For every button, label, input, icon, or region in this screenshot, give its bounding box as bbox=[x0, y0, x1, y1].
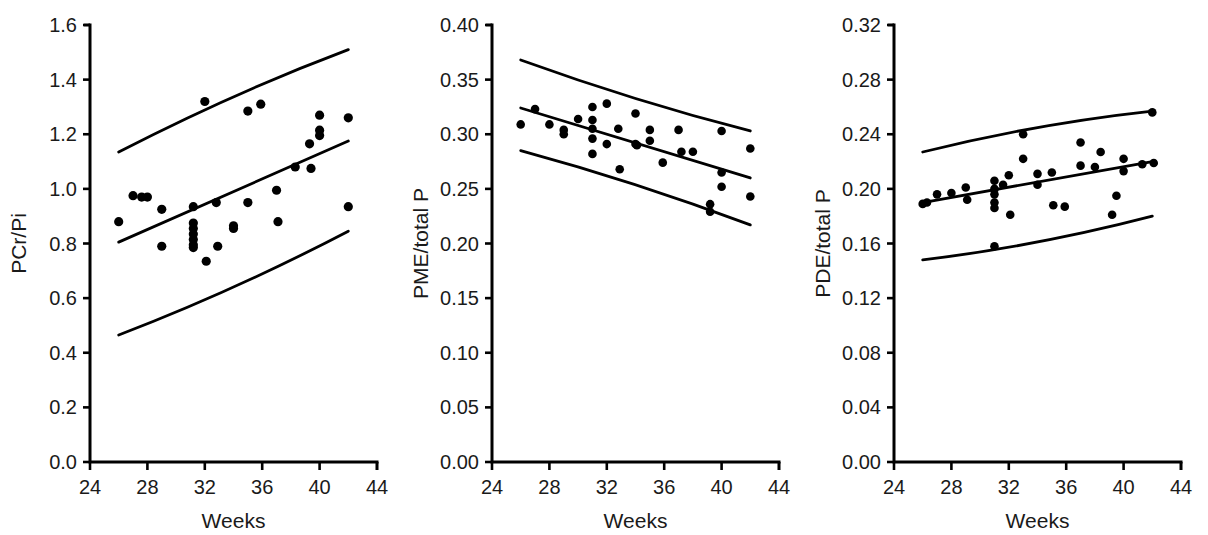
data-point bbox=[646, 137, 655, 146]
data-point bbox=[157, 205, 166, 214]
x-tick-label: 32 bbox=[596, 476, 618, 498]
data-point bbox=[157, 242, 166, 251]
data-point bbox=[306, 164, 315, 173]
data-point bbox=[588, 150, 597, 159]
data-point bbox=[1108, 211, 1117, 220]
y-tick-label: 0.28 bbox=[842, 69, 881, 91]
data-point bbox=[658, 158, 667, 167]
lower-confidence-band bbox=[119, 231, 349, 335]
x-tick-label: 32 bbox=[194, 476, 216, 498]
data-point bbox=[717, 168, 726, 177]
upper-confidence-band bbox=[119, 50, 349, 152]
data-point bbox=[746, 192, 755, 201]
data-point bbox=[1148, 108, 1157, 117]
data-point bbox=[243, 106, 252, 115]
data-point bbox=[990, 176, 999, 185]
data-point bbox=[963, 196, 972, 205]
upper-confidence-band bbox=[923, 111, 1153, 152]
data-point bbox=[143, 192, 152, 201]
data-point bbox=[990, 190, 999, 199]
data-point bbox=[1076, 138, 1085, 147]
x-axis-title: Weeks bbox=[1006, 509, 1070, 532]
data-point bbox=[615, 165, 624, 174]
y-tick-label: 0.20 bbox=[440, 233, 479, 255]
x-axis-title: Weeks bbox=[202, 509, 266, 532]
data-point bbox=[213, 242, 222, 251]
data-point bbox=[1019, 130, 1028, 139]
y-tick-label: 0.6 bbox=[49, 287, 77, 309]
y-tick-label: 0.12 bbox=[842, 287, 881, 309]
axis-spine bbox=[90, 25, 377, 462]
axis-spine bbox=[894, 25, 1181, 462]
data-point bbox=[1091, 163, 1100, 172]
data-point bbox=[1096, 148, 1105, 157]
upper-confidence-band bbox=[521, 60, 751, 131]
data-point bbox=[315, 111, 324, 120]
panel-pcr-pi: 0.00.20.40.60.81.01.21.41.6242832364044W… bbox=[0, 0, 402, 535]
x-tick-label: 28 bbox=[538, 476, 560, 498]
y-tick-label: 1.0 bbox=[49, 178, 77, 200]
y-tick-label: 0.35 bbox=[440, 69, 479, 91]
data-point bbox=[646, 126, 655, 135]
x-tick-label: 40 bbox=[710, 476, 732, 498]
data-point bbox=[1112, 191, 1121, 200]
data-point bbox=[990, 204, 999, 213]
data-point bbox=[603, 99, 612, 108]
data-point bbox=[961, 183, 970, 192]
y-tick-label: 0.15 bbox=[440, 287, 479, 309]
y-tick-label: 0.16 bbox=[842, 233, 881, 255]
data-point bbox=[1033, 170, 1042, 179]
data-point bbox=[1019, 155, 1028, 164]
data-point bbox=[531, 105, 540, 114]
data-point bbox=[717, 182, 726, 191]
panel-3-plot: 0.000.040.080.120.160.200.240.280.322428… bbox=[804, 0, 1206, 535]
y-tick-label: 0.4 bbox=[49, 342, 77, 364]
data-point bbox=[1005, 171, 1014, 180]
panel-pde-total-p: 0.000.040.080.120.160.200.240.280.322428… bbox=[804, 0, 1206, 535]
x-tick-label: 24 bbox=[883, 476, 905, 498]
data-point bbox=[229, 224, 238, 233]
data-point bbox=[923, 198, 932, 207]
data-point bbox=[272, 186, 281, 195]
data-point bbox=[588, 103, 597, 112]
y-tick-label: 0.40 bbox=[440, 14, 479, 36]
data-point bbox=[128, 191, 137, 200]
x-tick-label: 24 bbox=[481, 476, 503, 498]
y-tick-label: 0.00 bbox=[440, 451, 479, 473]
data-point bbox=[1076, 161, 1085, 170]
data-point bbox=[189, 243, 198, 252]
data-point bbox=[674, 126, 683, 135]
data-point bbox=[315, 131, 324, 140]
data-point bbox=[1049, 201, 1058, 210]
x-tick-label: 44 bbox=[366, 476, 388, 498]
data-point bbox=[202, 257, 211, 266]
data-point bbox=[999, 180, 1008, 189]
x-axis-title: Weeks bbox=[604, 509, 668, 532]
data-point bbox=[706, 208, 715, 217]
three-panel-scatter-figure: 0.00.20.40.60.81.01.21.41.6242832364044W… bbox=[0, 0, 1208, 535]
x-tick-label: 32 bbox=[998, 476, 1020, 498]
data-point bbox=[947, 189, 956, 198]
data-point bbox=[631, 109, 640, 118]
data-point bbox=[200, 97, 209, 106]
data-point bbox=[305, 139, 314, 148]
x-tick-label: 28 bbox=[940, 476, 962, 498]
data-point bbox=[717, 127, 726, 136]
x-tick-label: 40 bbox=[308, 476, 330, 498]
y-axis-title: PCr/Pi bbox=[7, 213, 30, 274]
data-point bbox=[344, 202, 353, 211]
data-point bbox=[1033, 180, 1042, 189]
data-point bbox=[114, 217, 123, 226]
panel-pme-total-p: 0.000.050.100.150.200.250.300.350.402428… bbox=[402, 0, 804, 535]
x-tick-label: 36 bbox=[251, 476, 273, 498]
data-point bbox=[588, 134, 597, 143]
y-tick-label: 0.00 bbox=[842, 451, 881, 473]
data-point bbox=[574, 115, 583, 124]
data-point bbox=[256, 100, 265, 109]
data-point bbox=[1119, 155, 1128, 164]
data-point bbox=[677, 147, 686, 156]
y-tick-label: 0.05 bbox=[440, 396, 479, 418]
data-point bbox=[291, 162, 300, 171]
panel-2-plot: 0.000.050.100.150.200.250.300.350.402428… bbox=[402, 0, 804, 535]
data-point bbox=[559, 130, 568, 139]
